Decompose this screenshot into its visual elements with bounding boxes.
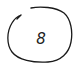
node-label: 8 bbox=[35, 29, 47, 49]
diagram-node: 8 bbox=[0, 0, 73, 69]
